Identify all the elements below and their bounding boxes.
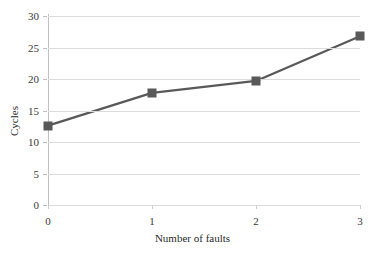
- x-axis-title: Number of faults: [0, 232, 385, 244]
- x-axis-tick-label: 3: [357, 216, 363, 227]
- y-axis-tick-mark: [43, 205, 47, 206]
- x-axis-tick-label: 1: [149, 216, 155, 227]
- y-axis-tick-mark: [43, 16, 47, 17]
- y-axis-tick-label: 25: [28, 42, 39, 53]
- gridline-y: [48, 79, 360, 80]
- x-axis-tick-mark: [360, 205, 361, 209]
- x-axis-tick-label: 0: [45, 216, 51, 227]
- y-axis-title: Cycles: [6, 0, 22, 260]
- gridline-y: [48, 48, 360, 49]
- plot-area: 0510152025300123: [48, 16, 360, 205]
- chart-container: Cycles 0510152025300123 Number of faults: [0, 0, 385, 260]
- x-axis-tick-label: 2: [253, 216, 259, 227]
- gridline-y: [48, 142, 360, 143]
- gridline-y: [48, 111, 360, 112]
- data-point-marker: [44, 121, 53, 130]
- gridline-y: [48, 174, 360, 175]
- data-point-marker: [356, 32, 365, 41]
- gridline-y: [48, 205, 360, 206]
- y-axis-tick-label: 30: [28, 11, 39, 22]
- series-path: [48, 36, 360, 125]
- x-axis-tick-mark: [256, 205, 257, 209]
- x-axis-tick-mark: [152, 205, 153, 209]
- y-axis-tick-mark: [43, 48, 47, 49]
- y-axis-tick-label: 15: [28, 105, 39, 116]
- x-axis-tick-mark: [48, 205, 49, 209]
- y-axis-tick-mark: [43, 111, 47, 112]
- y-axis-tick-mark: [43, 79, 47, 80]
- gridline-y: [48, 16, 360, 17]
- data-point-marker: [148, 88, 157, 97]
- y-axis-tick-label: 0: [34, 200, 40, 211]
- y-axis-tick-label: 10: [28, 137, 39, 148]
- data-point-marker: [252, 76, 261, 85]
- y-axis-tick-label: 5: [34, 168, 40, 179]
- y-axis-tick-mark: [43, 174, 47, 175]
- y-axis-tick-label: 20: [28, 74, 39, 85]
- y-axis-title-label: Cycles: [8, 106, 20, 136]
- y-axis-tick-mark: [43, 142, 47, 143]
